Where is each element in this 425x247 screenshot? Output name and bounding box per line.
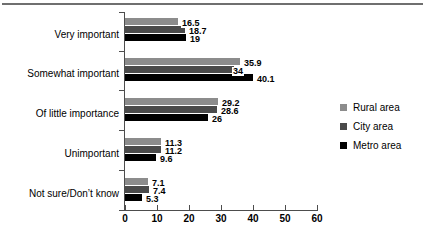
bar-rural-unimportant xyxy=(125,138,161,145)
bar-city-somewhat-important xyxy=(125,66,234,73)
x-axis-tick xyxy=(189,205,190,210)
y-axis-tick xyxy=(119,51,124,52)
bar-rural-of-little-importance xyxy=(125,98,218,105)
bar-value-metro-of-little-importance: 26 xyxy=(211,115,223,124)
legend: Rural area City area Metro area xyxy=(340,100,424,157)
legend-item-metro-area: Metro area xyxy=(340,138,424,153)
bar-value-metro-very-important: 19 xyxy=(189,35,201,44)
legend-label-city-area: City area xyxy=(353,121,393,133)
y-axis-tick xyxy=(119,130,124,131)
x-axis-tick xyxy=(253,205,254,210)
x-axis-tick-label-20: 20 xyxy=(177,213,201,225)
legend-item-city-area: City area xyxy=(340,119,424,134)
legend-item-rural-area: Rural area xyxy=(340,100,424,115)
category-label-very-important: Very important xyxy=(1,29,119,41)
y-axis-tick xyxy=(119,210,124,211)
legend-swatch-icon-rural xyxy=(340,104,347,111)
x-axis-tick xyxy=(285,205,286,210)
bar-city-of-little-importance xyxy=(125,106,217,113)
y-axis-tick xyxy=(119,90,124,91)
y-axis-tick xyxy=(119,12,124,13)
legend-swatch-icon-metro xyxy=(340,142,347,149)
bar-rural-very-important xyxy=(125,18,178,25)
bar-value-city-somewhat-important: 34 xyxy=(232,67,244,76)
legend-label-metro-area: Metro area xyxy=(353,140,401,152)
x-axis-tick-label-30: 30 xyxy=(209,213,233,225)
category-label-of-little-importance: Of little importance xyxy=(1,108,119,120)
category-label-not-sure: Not sure/Don’t know xyxy=(1,188,119,200)
bar-value-rural-somewhat-important: 35.9 xyxy=(243,59,263,68)
bar-city-not-sure xyxy=(125,186,149,193)
bar-metro-not-sure xyxy=(125,194,142,201)
bar-metro-of-little-importance xyxy=(125,114,208,121)
x-axis-tick xyxy=(125,205,126,210)
x-axis-tick-label-50: 50 xyxy=(273,213,297,225)
x-axis-tick-label-60: 60 xyxy=(305,213,329,225)
bar-rural-somewhat-important xyxy=(125,58,240,65)
bar-value-metro-not-sure: 5.3 xyxy=(145,195,160,204)
bar-city-very-important xyxy=(125,26,185,33)
bar-value-metro-somewhat-important: 40.1 xyxy=(256,75,276,84)
x-axis-tick xyxy=(157,205,158,210)
bar-value-metro-unimportant: 9.6 xyxy=(159,155,174,164)
bar-metro-unimportant xyxy=(125,154,156,161)
x-axis-line xyxy=(124,210,318,211)
x-axis-tick xyxy=(317,205,318,210)
legend-label-rural-area: Rural area xyxy=(353,102,400,114)
bar-rural-not-sure xyxy=(125,178,148,185)
y-axis-tick xyxy=(119,170,124,171)
bar-city-unimportant xyxy=(125,146,161,153)
category-label-unimportant: Unimportant xyxy=(1,148,119,160)
x-axis-tick-label-40: 40 xyxy=(241,213,265,225)
x-axis-tick xyxy=(221,205,222,210)
x-axis-tick-label-10: 10 xyxy=(145,213,169,225)
bar-metro-very-important xyxy=(125,34,186,41)
category-label-somewhat-important: Somewhat important xyxy=(1,68,119,80)
x-axis-tick-label-0: 0 xyxy=(113,213,137,225)
chart-figure: Very important Somewhat important Of lit… xyxy=(0,0,425,247)
legend-swatch-icon-city xyxy=(340,123,347,130)
